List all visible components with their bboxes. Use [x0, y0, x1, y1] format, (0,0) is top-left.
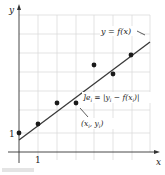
y-tick-label: 1: [9, 129, 15, 139]
y-axis-arrow-icon: [17, 4, 21, 10]
x-axis-arrow-icon: [154, 150, 160, 154]
data-point: [92, 63, 97, 68]
line-label: y = f(x): [100, 27, 131, 36]
x-axis-label: x: [156, 157, 161, 167]
data-point: [74, 101, 79, 106]
point-label-arrow: [80, 108, 88, 117]
caption-fragment: [2, 168, 34, 172]
point-label: (xi, yi): [81, 119, 103, 129]
data-point: [17, 131, 22, 136]
x-tick-label: 1: [35, 155, 41, 165]
grid: [19, 15, 150, 160]
data-point: [111, 72, 116, 77]
data-point: [36, 122, 41, 127]
y-axis-label: y: [8, 5, 15, 15]
data-point: [129, 53, 134, 58]
least-squares-diagram: y x 1 1 y = f(x) ]ei = |yi − f(xi)| (xi,…: [0, 0, 165, 175]
data-point: [55, 101, 60, 106]
